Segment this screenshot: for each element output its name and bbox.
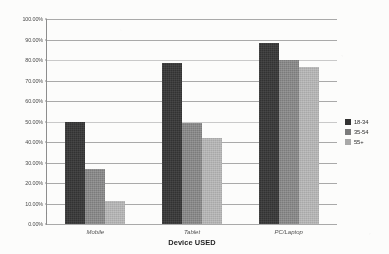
y-axis-tick-label: 20.00% xyxy=(25,180,47,186)
y-axis-tick-label: 10.00% xyxy=(25,201,47,207)
legend-label: 18-34 xyxy=(354,119,368,125)
legend-label: 35-54 xyxy=(354,129,368,135)
chart-screenshot: 0.00%10.00%20.00%30.00%40.00%50.00%60.00… xyxy=(0,0,389,254)
gridline-0.00% xyxy=(47,224,337,225)
y-axis-tick-label: 40.00% xyxy=(25,139,47,145)
y-axis-tick-label: 90.00% xyxy=(25,37,47,43)
bar-tablet-18-34 xyxy=(162,63,182,224)
bar-tablet-55- xyxy=(202,138,222,224)
x-axis-title: Device USED xyxy=(168,238,216,247)
legend-item-35-54[interactable]: 35-54 xyxy=(345,127,368,136)
plot-area: 0.00%10.00%20.00%30.00%40.00%50.00%60.00… xyxy=(47,19,337,224)
y-axis-tick-label: 0.00% xyxy=(28,221,47,227)
legend-swatch-icon xyxy=(345,129,351,135)
y-axis-tick-label: 60.00% xyxy=(25,98,47,104)
y-axis-tick-label: 50.00% xyxy=(25,119,47,125)
legend-swatch-icon xyxy=(345,139,351,145)
bar-pc-laptop-18-34 xyxy=(259,43,279,224)
bar-group-tablet xyxy=(144,19,241,224)
chart-legend: 18-3435-5455+ xyxy=(345,117,368,147)
bar-mobile-18-34 xyxy=(65,122,85,225)
legend-item-55-[interactable]: 55+ xyxy=(345,137,368,146)
x-axis-tick-label-pc-laptop: PC/Laptop xyxy=(274,229,302,235)
x-axis-tick-label-tablet: Tablet xyxy=(184,229,200,235)
bar-pc-laptop-55- xyxy=(299,67,319,224)
y-axis-tick-label: 100.00% xyxy=(22,16,47,22)
y-axis-tick-label: 80.00% xyxy=(25,57,47,63)
bar-mobile-35-54 xyxy=(85,169,105,224)
legend-swatch-icon xyxy=(345,119,351,125)
bar-tablet-35-54 xyxy=(182,123,202,224)
legend-item-18-34[interactable]: 18-34 xyxy=(345,117,368,126)
bar-group-pc-laptop xyxy=(240,19,337,224)
y-axis-tick-label: 30.00% xyxy=(25,160,47,166)
legend-label: 55+ xyxy=(354,139,364,145)
x-axis-tick-label-mobile: Mobile xyxy=(86,229,104,235)
y-axis-tick-label: 70.00% xyxy=(25,78,47,84)
bar-group-mobile xyxy=(47,19,144,224)
bar-pc-laptop-35-54 xyxy=(279,60,299,224)
bar-mobile-55- xyxy=(105,201,125,224)
